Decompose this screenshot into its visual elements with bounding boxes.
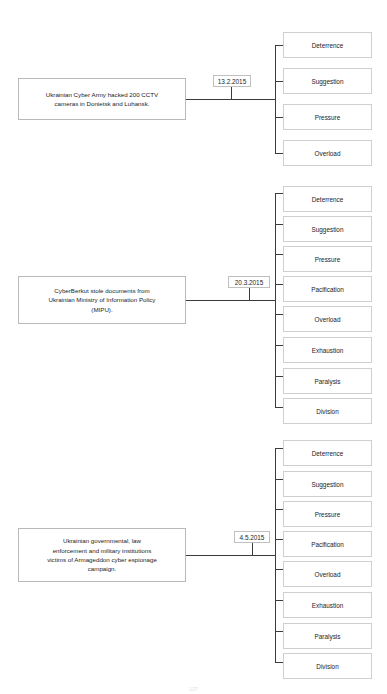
effect-box-exhaustion[interactable]: Exhaustion xyxy=(283,592,372,618)
event-text-2: CyberBerkut stole documents from Ukraini… xyxy=(49,286,156,314)
effect-box-pressure[interactable]: Pressure xyxy=(283,501,372,527)
trunk-line-2 xyxy=(186,300,275,301)
date-stem-2 xyxy=(249,288,250,300)
effect-box-suggestion[interactable]: Suggestion xyxy=(283,471,372,497)
trunk-line-3 xyxy=(186,555,275,556)
stub-3-6 xyxy=(275,631,283,632)
event-text-3: Ukrainian governmental, law enforcement … xyxy=(47,536,157,573)
stub-3-2 xyxy=(275,509,283,510)
incident-effects-diagram: Ukrainian Cyber Army hacked 200 CCTV cam… xyxy=(0,0,387,694)
effect-box-overload[interactable]: Overload xyxy=(283,306,372,332)
stub-3-5 xyxy=(275,600,283,601)
effect-box-paralysis[interactable]: Paralysis xyxy=(283,623,372,649)
stub-3-7 xyxy=(275,662,283,663)
date-stem-3 xyxy=(252,543,253,555)
effect-box-division[interactable]: Division xyxy=(283,653,372,679)
date-label-2: 20.3.2015 xyxy=(228,276,270,288)
stub-3-4 xyxy=(275,569,283,570)
page-number: 127 xyxy=(0,686,387,692)
effect-box-deterrence[interactable]: Deterrence xyxy=(283,440,372,466)
event-box-2[interactable]: CyberBerkut stole documents from Ukraini… xyxy=(18,276,186,324)
stub-3-1 xyxy=(275,479,283,480)
stub-2-5 xyxy=(275,345,283,346)
stub-2-6 xyxy=(275,376,283,377)
effect-box-pacification[interactable]: Pacification xyxy=(283,276,372,302)
stub-2-3 xyxy=(275,284,283,285)
date-label-3: 4.5.2015 xyxy=(234,531,270,543)
effect-box-overload[interactable]: Overload xyxy=(283,561,372,587)
stub-2-7 xyxy=(275,407,283,408)
stub-3-3 xyxy=(275,539,283,540)
stub-3-0 xyxy=(275,448,283,449)
stub-2-2 xyxy=(275,254,283,255)
effect-box-paralysis[interactable]: Paralysis xyxy=(283,368,372,394)
stub-2-4 xyxy=(275,314,283,315)
event-box-3[interactable]: Ukrainian governmental, law enforcement … xyxy=(18,528,186,582)
incident-group-3: Ukrainian governmental, law enforcement … xyxy=(0,0,387,250)
effect-box-exhaustion[interactable]: Exhaustion xyxy=(283,337,372,363)
effect-box-division[interactable]: Division xyxy=(283,398,372,424)
effect-box-pacification[interactable]: Pacification xyxy=(283,531,372,557)
